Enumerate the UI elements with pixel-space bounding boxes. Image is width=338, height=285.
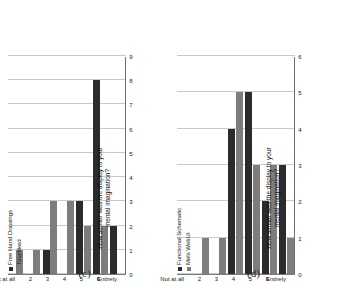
value-axis-ticks-c: 0123456789 [128,57,146,275]
value-tick-label: 3 [294,163,306,169]
bar [245,92,252,274]
bar [228,129,235,274]
panel-c: 0123456789 Not at all23456Entirely Free … [0,0,169,285]
bar [67,201,74,274]
axis-title-line-2: mental imagination? [273,133,281,263]
value-tick-label: 1 [294,236,306,242]
bar-group [244,57,261,274]
legend-c: Free Hand DrawingsTouchked [6,210,24,271]
bar [236,92,243,274]
legend-label: Touchked [15,239,24,265]
legend-d: Functional SchematicMels WebUI [175,208,193,271]
value-tick-label: 1 [125,248,137,254]
value-tick-label: 7 [125,102,137,108]
legend-item: Mels WebUI [184,208,193,271]
bar-group [194,57,211,274]
panel-d: 0123456 Not at all23456Entirely Function… [169,0,338,285]
bar-group [211,57,228,274]
value-tick-label: 9 [125,54,137,60]
panel-label-d: (d) [169,267,338,279]
bar-group [42,57,59,274]
value-tick-label: 4 [125,175,137,181]
value-tick-label: 5 [125,151,137,157]
value-tick-label: 8 [125,78,137,84]
legend-label: Mels WebUI [184,232,193,265]
value-tick-label: 2 [125,224,137,230]
legend-item: Functional Schematic [175,208,184,271]
axis-title-line-1: How similar was the display to your [96,133,104,263]
legend-label: Functional Schematic [175,208,184,265]
bar [253,165,260,274]
panel-d-rotated-stage: 0123456 Not at all23456Entirely Function… [169,0,338,285]
value-tick-label: 2 [294,199,306,205]
gridline [177,55,295,56]
axis-title-line-2: mental imagination? [104,133,112,263]
figure-container: 0123456789 Not at all23456Entirely Free … [0,0,338,285]
panel-c-rotated-stage: 0123456789 Not at all23456Entirely Free … [0,0,169,285]
value-tick-label: 6 [125,127,137,133]
gridline [8,55,126,56]
bar [76,201,83,274]
bar-group [75,57,92,274]
legend-label: Free Hand Drawings [6,210,15,265]
value-axis-ticks-d: 0123456 [297,57,315,275]
value-tick-label: 6 [294,54,306,60]
value-tick-label: 4 [294,127,306,133]
bar-group [228,57,245,274]
axis-title-line-1: How similar was the display to your [265,133,273,263]
bar-group [25,57,42,274]
legend-item: Touchked [15,210,24,271]
axis-title-c: How similar was the display to yourmenta… [96,133,112,263]
legend-item: Free Hand Drawings [6,210,15,271]
bar [50,201,57,274]
panel-label-c: (c) [0,267,169,279]
axis-title-d: How similar was the display to yourmenta… [265,133,281,263]
value-tick-label: 5 [294,90,306,96]
value-tick-label: 3 [125,199,137,205]
bar-group [59,57,76,274]
